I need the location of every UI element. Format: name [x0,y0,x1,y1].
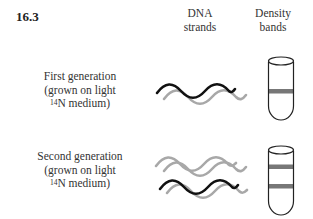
density-band-light [269,165,294,170]
dna-double-strand-gen1 [157,84,246,104]
tube-opening [269,57,294,65]
light-strand [156,157,236,171]
dna-double-strand-gen2-light [156,157,246,176]
tube-opening [269,146,294,154]
diagram-graphics [0,0,313,219]
density-band-intermediate [269,184,294,189]
centrifuge-tube-gen2 [269,146,294,215]
density-band-intermediate [269,89,294,94]
dna-double-strand-gen2-hybrid [160,180,247,198]
centrifuge-tube-gen1 [269,57,294,120]
